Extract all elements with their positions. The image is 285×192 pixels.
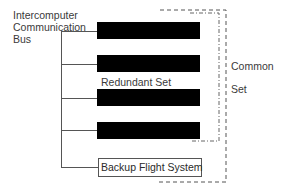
redundant-set-boundary [190, 13, 219, 141]
common-set-label-line-1: Common [231, 60, 274, 72]
common-set-label-line-2: Set [231, 83, 247, 95]
common-set-boundary [158, 10, 226, 182]
set-enclosures [0, 0, 285, 192]
